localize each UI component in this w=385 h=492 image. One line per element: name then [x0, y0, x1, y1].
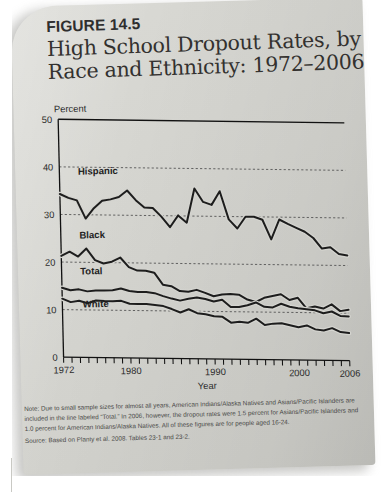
y-tick-label-10: 10	[46, 304, 57, 315]
x-tick-label-1972: 1972	[53, 364, 74, 375]
y-tick-label-40: 40	[43, 161, 54, 172]
top-rule	[58, 113, 344, 129]
figure-heading: FIGURE 14.5 High School Dropout Rates, b…	[46, 7, 368, 84]
y-axis-title: Percent	[54, 103, 87, 115]
x-axis-title: Year	[198, 380, 217, 391]
line-chart: 01020304050 19721980199020002006 Percent…	[26, 104, 372, 402]
figure-notes: Note: Due to small sample sizes for almo…	[24, 395, 367, 446]
page-margin-rule	[11, 458, 12, 492]
y-tick-label-0: 0	[52, 352, 57, 363]
y-tick-labels: 01020304050	[42, 114, 58, 363]
page-bottom-margin	[0, 476, 385, 492]
y-axis-line	[58, 119, 63, 357]
gridline-30	[60, 208, 346, 224]
x-tick-label-1980: 1980	[121, 365, 142, 376]
x-tick-label-2006: 2006	[339, 367, 360, 378]
chart-svg: 01020304050 19721980199020002006 Percent…	[26, 104, 372, 402]
x-axis-line	[64, 351, 350, 367]
series-halo-hispanic	[60, 185, 348, 262]
series-group	[60, 185, 349, 340]
y-tick-label-50: 50	[42, 114, 53, 125]
gridlines-group	[59, 160, 348, 319]
series-label-black: Black	[79, 229, 106, 241]
series-label-hispanic: Hispanic	[78, 165, 119, 177]
series-label-total: Total	[80, 265, 102, 277]
y-tick-label-30: 30	[44, 209, 55, 220]
y-tick-label-20: 20	[45, 257, 56, 268]
series-label-white: White	[82, 298, 108, 310]
x-tick-label-2000: 2000	[289, 367, 310, 378]
axis-titles: PercentYear	[54, 100, 217, 394]
page-left-margin	[0, 0, 12, 492]
series-line-hispanic	[60, 185, 348, 262]
x-tick-label-1990: 1990	[205, 366, 226, 377]
axis-frame-group	[58, 113, 350, 367]
plot-area: 01020304050 19721980199020002006 Percent…	[26, 104, 372, 402]
